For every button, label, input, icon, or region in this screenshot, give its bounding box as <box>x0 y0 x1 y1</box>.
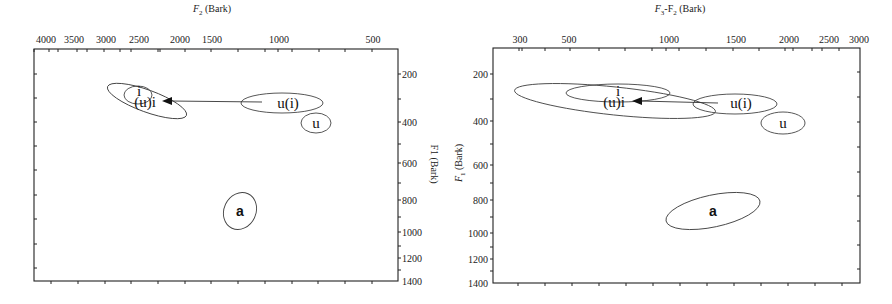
right-x-tick-label: 2000 <box>779 34 799 45</box>
left-y-tick-label: 200 <box>402 69 417 80</box>
left-x-tick-label: 4000 <box>36 34 56 45</box>
right-y-tick-label: 1400 <box>468 278 488 289</box>
right-ellipses <box>513 77 805 237</box>
right-y-tick-label: 200 <box>473 69 488 80</box>
left-y-tick-label: 1400 <box>402 276 422 287</box>
right-x-tick-label: 2500 <box>819 34 839 45</box>
left-label-u-i: u(i) <box>277 95 299 112</box>
right-y-tick-label: 800 <box>473 195 488 206</box>
left-y-tick-labels: 200 400 600 800 1000 1200 1400 <box>402 69 422 287</box>
right-x-tick-labels: 300 500 1000 1500 2000 2500 3000 <box>513 34 870 45</box>
right-x-tick-label: 3000 <box>849 34 869 45</box>
left-x-tick-label: 1500 <box>202 34 222 45</box>
right-y-tick-label: 600 <box>473 160 488 171</box>
left-x-tick-label: 3500 <box>64 34 84 45</box>
right-label-u: u <box>779 115 787 131</box>
right-plot: F3-F2 (Bark) 300 500 1000 1500 2000 2500… <box>453 3 869 289</box>
left-y-tick-label: 1200 <box>402 253 422 264</box>
left-x-tick-label: 1000 <box>269 34 289 45</box>
right-y-tick-label: 1200 <box>468 254 488 265</box>
left-y-axis-title: F1 (Bark) <box>428 144 440 183</box>
right-x-tick-label: 300 <box>513 34 528 45</box>
left-label-u: u <box>312 115 320 131</box>
right-x-tick-label: 1500 <box>726 34 746 45</box>
left-x-axis-title: F2 (Bark) <box>192 3 231 17</box>
arrowhead-icon <box>162 97 172 105</box>
right-label-u-i: u(i) <box>730 95 752 112</box>
left-label-a: a <box>236 203 244 219</box>
right-y-axis-title: F1 (Bark) <box>453 144 467 183</box>
right-label-a: a <box>709 203 717 219</box>
left-x-tick-label: 3000 <box>96 34 116 45</box>
right-x-tick-label: 500 <box>562 34 577 45</box>
figure-canvas: F2 (Bark) 4000 3500 3000 2500 2000 1500 … <box>0 0 892 304</box>
left-plot-frame <box>34 49 398 281</box>
left-x-tick-label: 2000 <box>170 34 190 45</box>
right-y-tick-label: 400 <box>473 116 488 127</box>
right-x-axis-title: F3-F2 (Bark) <box>654 3 706 17</box>
left-label-ui: (u)i <box>134 94 156 111</box>
left-x-tick-label: 2500 <box>129 34 149 45</box>
left-x-tick-label: 500 <box>366 34 381 45</box>
left-y-tick-label: 800 <box>402 195 417 206</box>
right-label-ui: (u)i <box>603 94 625 111</box>
left-y-tick-label: 600 <box>402 158 417 169</box>
left-plot: F2 (Bark) 4000 3500 3000 2500 2000 1500 … <box>34 3 440 287</box>
left-x-tick-labels: 4000 3500 3000 2500 2000 1500 1000 500 <box>36 34 381 45</box>
arrowhead-icon <box>632 97 642 105</box>
right-x-tick-label: 1000 <box>659 34 679 45</box>
right-y-tick-labels: 200 400 600 800 1000 1200 1400 <box>468 69 488 289</box>
left-y-tick-label: 1000 <box>402 227 422 238</box>
right-y-tick-label: 1000 <box>468 228 488 239</box>
left-y-tick-label: 400 <box>402 117 417 128</box>
